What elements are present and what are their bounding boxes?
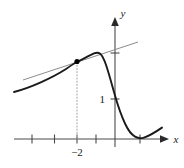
x-tick-minus-two-label: −2	[71, 146, 83, 158]
math-graph-figure: y x 1 −2	[0, 0, 184, 168]
graph-canvas: y x 1 −2	[0, 0, 184, 168]
axes-group	[14, 17, 169, 147]
y-axis-label: y	[120, 7, 126, 19]
x-axis-label: x	[173, 133, 179, 145]
y-tick-one-label: 1	[100, 93, 106, 105]
function-curve	[14, 53, 162, 138]
y-axis-arrowhead	[111, 17, 119, 26]
x-axis-arrowhead	[160, 135, 169, 143]
tangent-point-marker	[74, 59, 79, 64]
